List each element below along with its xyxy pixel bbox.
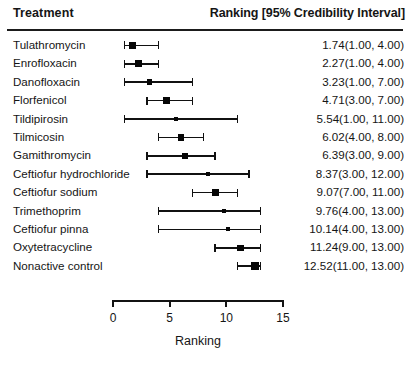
- ranking-value: 5.54(1.00, 11.00): [317, 111, 404, 127]
- confidence-interval-cap-lower: [146, 97, 148, 105]
- confidence-interval-cap-upper: [192, 97, 194, 105]
- ranking-value: 9.07(7.00, 11.00): [317, 184, 404, 200]
- point-estimate-marker: [226, 227, 230, 231]
- ranking-value: 8.37(3.00, 12.00): [316, 166, 404, 182]
- x-axis-tick-label: 15: [268, 311, 298, 325]
- x-axis-tick: [112, 300, 114, 307]
- confidence-interval-cap-upper: [214, 152, 216, 160]
- confidence-interval-line: [158, 210, 260, 212]
- column-header-treatment: Treatment: [13, 6, 74, 20]
- point-estimate-marker: [174, 117, 178, 121]
- confidence-interval-cap-upper: [237, 115, 239, 123]
- forest-plot-figure: Treatment Ranking [95% Credibility Inter…: [0, 0, 410, 366]
- confidence-interval-cap-lower: [146, 170, 148, 178]
- confidence-interval-cap-upper: [203, 133, 205, 141]
- confidence-interval-cap-upper: [158, 60, 160, 68]
- confidence-interval-cap-upper: [260, 262, 262, 270]
- confidence-interval-cap-upper: [158, 41, 160, 49]
- x-axis-line: [113, 300, 283, 302]
- point-estimate-marker: [206, 172, 210, 176]
- forest-row: Florfenicol4.71(3.00, 7.00): [0, 91, 410, 109]
- confidence-interval-cap-lower: [158, 225, 160, 233]
- confidence-interval-cap-lower: [124, 41, 126, 49]
- confidence-interval-line: [147, 155, 215, 157]
- x-axis-title: Ranking: [113, 334, 283, 348]
- x-axis-tick: [169, 300, 171, 307]
- forest-row: Oxytetracycline11.24(9.00, 13.00): [0, 238, 410, 256]
- confidence-interval-cap-lower: [146, 152, 148, 160]
- confidence-interval-cap-lower: [158, 133, 160, 141]
- confidence-interval-cap-lower: [237, 262, 239, 270]
- ranking-value: 10.14(4.00, 13.00): [309, 221, 404, 237]
- ranking-value: 12.52(11.00, 13.00): [304, 258, 404, 274]
- forest-row: Danofloxacin3.23(1.00, 7.00): [0, 73, 410, 91]
- point-estimate-marker: [147, 79, 153, 85]
- confidence-interval-cap-upper: [192, 78, 194, 86]
- confidence-interval-line: [158, 229, 260, 231]
- point-estimate-marker: [163, 97, 171, 105]
- forest-row: Ceftiofur sodium9.07(7.00, 11.00): [0, 183, 410, 201]
- confidence-interval-cap-upper: [260, 225, 262, 233]
- forest-row: Gamithromycin6.39(3.00, 9.00): [0, 146, 410, 164]
- ranking-value: 9.76(4.00, 13.00): [316, 203, 404, 219]
- forest-row: Tulathromycin1.74(1.00, 4.00): [0, 36, 410, 54]
- ranking-value: 6.02(4.00, 8.00): [322, 129, 404, 145]
- point-estimate-marker: [135, 60, 142, 67]
- ranking-value: 1.74(1.00, 4.00): [322, 37, 404, 53]
- point-estimate-marker: [178, 134, 185, 141]
- forest-plot-rows: Tulathromycin1.74(1.00, 4.00)Enrofloxaci…: [0, 36, 410, 292]
- ranking-value: 2.27(1.00, 4.00): [322, 55, 404, 71]
- forest-row: Nonactive control12.52(11.00, 13.00): [0, 257, 410, 275]
- forest-row: Trimethoprim9.76(4.00, 13.00): [0, 202, 410, 220]
- x-axis-tick: [225, 300, 227, 307]
- point-estimate-marker: [212, 189, 219, 196]
- confidence-interval-cap-lower: [158, 207, 160, 215]
- x-axis-tick-label: 0: [98, 311, 128, 325]
- ranking-value: 11.24(9.00, 13.00): [310, 239, 404, 255]
- x-axis-tick: [282, 300, 284, 307]
- x-axis-tick-label: 5: [155, 311, 185, 325]
- forest-row: Ceftiofur pinna10.14(4.00, 13.00): [0, 220, 410, 238]
- confidence-interval-cap-upper: [260, 244, 262, 252]
- header-divider: [7, 29, 403, 31]
- confidence-interval-line: [124, 81, 192, 83]
- confidence-interval-cap-upper: [237, 189, 239, 197]
- confidence-interval-cap-lower: [192, 189, 194, 197]
- forest-row: Enrofloxacin2.27(1.00, 4.00): [0, 54, 410, 72]
- confidence-interval-line: [147, 173, 249, 175]
- confidence-interval-cap-upper: [248, 170, 250, 178]
- point-estimate-marker: [129, 42, 137, 50]
- ranking-value: 3.23(1.00, 7.00): [322, 74, 404, 90]
- x-axis: 051015 Ranking: [0, 298, 410, 366]
- ranking-value: 6.39(3.00, 9.00): [322, 147, 404, 163]
- x-axis-tick-label: 10: [211, 311, 241, 325]
- confidence-interval-cap-upper: [260, 207, 262, 215]
- point-estimate-marker: [222, 209, 226, 213]
- forest-row: Tilmicosin6.02(4.00, 8.00): [0, 128, 410, 146]
- confidence-interval-cap-lower: [124, 115, 126, 123]
- confidence-interval-cap-lower: [214, 244, 216, 252]
- forest-row: Ceftiofur hydrochloride8.37(3.00, 12.00): [0, 165, 410, 183]
- point-estimate-marker: [182, 153, 188, 159]
- confidence-interval-cap-lower: [124, 60, 126, 68]
- point-estimate-marker: [237, 245, 244, 252]
- forest-row: Tildipirosin5.54(1.00, 11.00): [0, 110, 410, 128]
- confidence-interval-cap-lower: [124, 78, 126, 86]
- table-header: Treatment Ranking [95% Credibility Inter…: [0, 6, 410, 26]
- confidence-interval-line: [124, 118, 237, 120]
- point-estimate-marker: [251, 262, 260, 271]
- column-header-ranking: Ranking [95% Credibility Interval]: [210, 6, 405, 20]
- ranking-value: 4.71(3.00, 7.00): [322, 92, 404, 108]
